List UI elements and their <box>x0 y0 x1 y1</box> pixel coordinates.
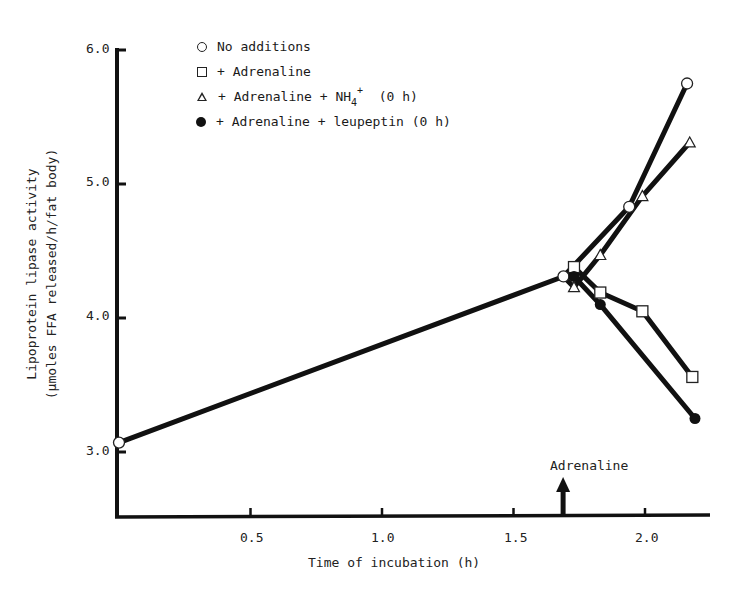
filled-circle-marker <box>595 299 606 310</box>
open-square-marker <box>637 306 648 317</box>
legend-label: No additions <box>217 34 311 59</box>
open-circle-marker <box>624 201 635 212</box>
y-tick-5: 5.0 <box>86 174 109 189</box>
y-axis-title-line1: Lipoprotein lipase activity <box>22 64 42 484</box>
x-tick-2.0: 2.0 <box>635 530 658 545</box>
open-circle-icon <box>197 42 207 52</box>
arrow-up-icon <box>556 477 570 492</box>
open-triangle-marker <box>684 137 695 147</box>
legend-item-adrenaline-nh4: + Adrenaline + NH4+ (0 h) <box>196 84 451 109</box>
x-tick-1.5: 1.5 <box>504 530 527 545</box>
filled-circle-marker <box>568 271 579 282</box>
open-triangle-icon <box>197 92 207 101</box>
filled-circle-marker <box>689 413 700 424</box>
y-axis-title-line2: (μmoles FFA released/h/fat body) <box>42 64 62 484</box>
adrenaline-annotation-label: Adrenaline <box>550 458 628 473</box>
open-square-marker <box>568 262 579 273</box>
x-axis-line <box>115 515 710 517</box>
legend-label-sub: 4 <box>351 97 357 108</box>
open-square-marker <box>595 287 606 298</box>
x-tick-0.5: 0.5 <box>240 530 263 545</box>
legend: No additions + Adrenaline + Adrenaline +… <box>196 34 451 134</box>
y-tick-3: 3.0 <box>86 443 109 458</box>
y-tick-6: 6.0 <box>86 41 109 56</box>
open-square-marker <box>687 371 698 382</box>
series-line <box>119 84 687 443</box>
legend-label-post: (0 h) <box>363 89 418 104</box>
open-circle-marker <box>114 437 125 448</box>
legend-item-no-additions: No additions <box>196 34 451 59</box>
x-tick-1.0: 1.0 <box>371 530 394 545</box>
y-axis-title: Lipoprotein lipase activity (μmoles FFA … <box>22 64 62 484</box>
legend-item-adrenaline-leupeptin: + Adrenaline + leupeptin (0 h) <box>196 109 451 134</box>
x-axis-title: Time of incubation (h) <box>308 555 480 570</box>
legend-label-pre: + Adrenaline + NH <box>218 89 351 104</box>
series-line <box>564 277 696 419</box>
open-square-icon <box>197 67 207 77</box>
open-circle-marker <box>682 78 693 89</box>
y-tick-4: 4.0 <box>86 308 109 323</box>
open-circle-marker <box>558 271 569 282</box>
legend-label: + Adrenaline + leupeptin (0 h) <box>216 109 451 134</box>
filled-circle-icon <box>196 117 206 127</box>
series-line <box>564 143 690 288</box>
